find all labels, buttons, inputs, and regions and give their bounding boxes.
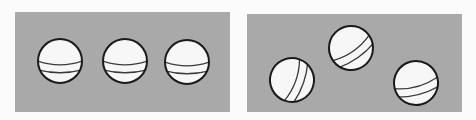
striped-ball: [165, 40, 209, 84]
striped-ball: [103, 39, 147, 83]
striped-ball: [264, 52, 320, 108]
striped-ball: [389, 56, 443, 110]
striped-ball: [320, 17, 381, 78]
striped-ball: [38, 39, 82, 83]
balls-drawing: [0, 0, 476, 120]
